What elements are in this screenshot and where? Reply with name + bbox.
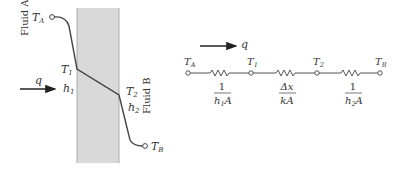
r2-denominator: kA xyxy=(280,95,293,106)
circuit-label-t1: T1 xyxy=(247,56,258,69)
r2-numerator: Δx xyxy=(280,81,294,92)
h1-label: h1 xyxy=(63,82,75,96)
r1-numerator: 1 xyxy=(219,81,225,92)
circuit-node-t2 xyxy=(315,71,319,75)
circuit-label-ta: TA xyxy=(184,56,196,69)
q-label-circuit: q xyxy=(241,38,248,51)
node-tb-wall xyxy=(143,144,148,149)
circuit-node-tb xyxy=(378,71,382,75)
circuit-label-tb: TB xyxy=(375,56,387,69)
h2-label: h2 xyxy=(128,101,140,115)
thermal-resistance-diagram: Fluid A Fluid B TA T1 h1 q T2 h2 TB q TA… xyxy=(0,0,398,171)
t1-label-wall: T1 xyxy=(61,63,73,77)
circuit-label-t2: T2 xyxy=(313,56,324,69)
ta-label-wall: TA xyxy=(32,11,44,25)
fluid-b-label: Fluid B xyxy=(141,77,152,114)
circuit-wire xyxy=(190,70,378,76)
r3-denominator: h2A xyxy=(345,95,363,108)
r1-denominator: h1A xyxy=(214,95,232,108)
q-label-wall: q xyxy=(35,74,42,87)
t2-label-wall: T2 xyxy=(126,85,138,99)
circuit-node-t1 xyxy=(249,71,253,75)
tb-label-wall: TB xyxy=(151,140,164,154)
fluid-a-label: Fluid A xyxy=(19,0,30,36)
wall xyxy=(77,8,119,163)
r3-numerator: 1 xyxy=(350,81,356,92)
node-ta-wall xyxy=(50,15,55,20)
circuit-node-ta xyxy=(186,71,190,75)
